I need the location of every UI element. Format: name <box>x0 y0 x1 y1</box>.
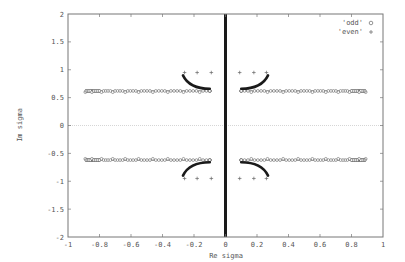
x-tick-label: 0.2 <box>251 241 264 249</box>
legend-marker-even-plus-icon <box>369 30 373 34</box>
chart: -1-0.8-0.6-0.4-0.200.20.40.60.81 -2-1.5-… <box>0 0 405 262</box>
x-tick-label: -0.8 <box>91 241 108 249</box>
y-tick-label: -1.5 <box>47 206 64 214</box>
y-tick-label: 0.5 <box>51 94 64 102</box>
y-tick-label: -2 <box>56 234 64 242</box>
legend-label-even: 'even' <box>338 28 363 36</box>
y-tick-label: 2 <box>60 11 64 19</box>
y-axis-label: Im sigma <box>16 108 24 142</box>
x-tick-label: -0.6 <box>123 241 140 249</box>
y-tick-label: 0 <box>60 122 64 130</box>
legend: 'odd' 'even' <box>338 19 373 36</box>
x-tick-label: -0.2 <box>186 241 203 249</box>
y-tick-labels: -2-1.5-1-0.500.511.52 <box>47 11 64 242</box>
y-tick-label: 1.5 <box>51 38 64 46</box>
x-tick-label: 0.8 <box>345 241 358 249</box>
y-tick-label: -0.5 <box>47 150 64 158</box>
x-tick-label: 0.6 <box>314 241 327 249</box>
x-tick-label: 0.4 <box>282 241 295 249</box>
legend-label-odd: 'odd' <box>342 19 363 27</box>
legend-marker-odd-circle-icon <box>369 21 373 25</box>
x-tick-label: 0 <box>223 241 227 249</box>
y-tick-label: 1 <box>60 66 64 74</box>
x-tick-label: -1 <box>64 241 72 249</box>
x-tick-label: -0.4 <box>154 241 171 249</box>
x-axis-label: Re sigma <box>209 252 243 260</box>
x-tick-label: 1 <box>381 241 385 249</box>
y-tick-label: -1 <box>56 178 64 186</box>
x-tick-labels: -1-0.8-0.6-0.4-0.200.20.40.60.81 <box>64 241 385 249</box>
